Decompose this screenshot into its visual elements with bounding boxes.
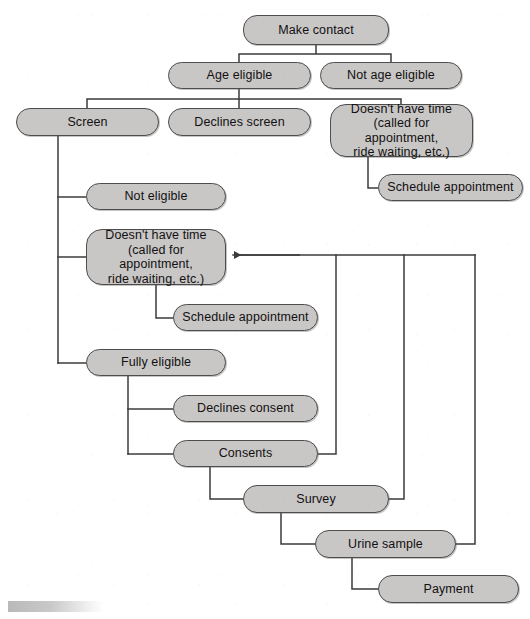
node-label: Not age eligible [341,68,441,83]
node-label: Age eligible [201,68,279,83]
node-label: Not eligible [118,189,193,204]
edge-feedback-from-urine-sample [456,255,475,544]
node-survey[interactable]: Survey [243,485,389,513]
scan-artifact-smudge [8,601,104,612]
node-schedule-appointment-lower[interactable]: Schedule appointment [173,304,318,331]
node-fully-eligible[interactable]: Fully eligible [86,349,226,376]
edge-feedback-from-survey [389,255,404,499]
node-label: Consents [213,446,279,461]
node-urine-sample[interactable]: Urine sample [315,530,456,558]
edge-no-time-lower-to-schedule [156,285,173,318]
node-schedule-appointment-upper[interactable]: Schedule appointment [378,174,523,201]
node-consents[interactable]: Consents [173,440,318,467]
edge-feedback-from-consents [318,255,336,454]
edge-survey-to-urine-sample [281,513,315,544]
node-label: Survey [290,492,342,507]
node-label: Declines screen [188,115,290,130]
node-not-age-eligible[interactable]: Not age eligible [320,62,462,89]
node-declines-consent[interactable]: Declines consent [173,395,318,422]
node-declines-screen[interactable]: Declines screen [168,108,311,136]
node-age-eligible[interactable]: Age eligible [168,62,311,89]
edge-consents-to-survey [210,467,243,499]
node-label: Payment [417,582,479,597]
edge-make-contact-split [239,45,391,62]
node-doesnt-have-time-lower[interactable]: Doesn't have time (called for appointmen… [86,229,226,285]
flowchart-canvas: Make contact Age eligible Not age eligib… [0,0,530,619]
node-label: Declines consent [191,401,300,416]
node-doesnt-have-time-upper[interactable]: Doesn't have time (called for appointmen… [330,104,473,157]
node-make-contact[interactable]: Make contact [243,15,389,45]
node-not-eligible[interactable]: Not eligible [86,183,226,210]
node-label: Doesn't have time (called for appointmen… [87,228,225,286]
edge-urine-sample-to-payment [352,558,378,589]
node-label: Schedule appointment [176,310,314,325]
node-label: Doesn't have time (called for appointmen… [331,102,472,160]
node-screen[interactable]: Screen [16,108,159,136]
node-label: Fully eligible [115,355,197,370]
node-label: Schedule appointment [381,180,519,195]
edge-no-time-upper-to-schedule [368,157,378,188]
node-label: Screen [61,115,113,130]
node-label: Urine sample [342,537,429,552]
node-payment[interactable]: Payment [378,575,519,603]
node-label: Make contact [272,23,360,38]
